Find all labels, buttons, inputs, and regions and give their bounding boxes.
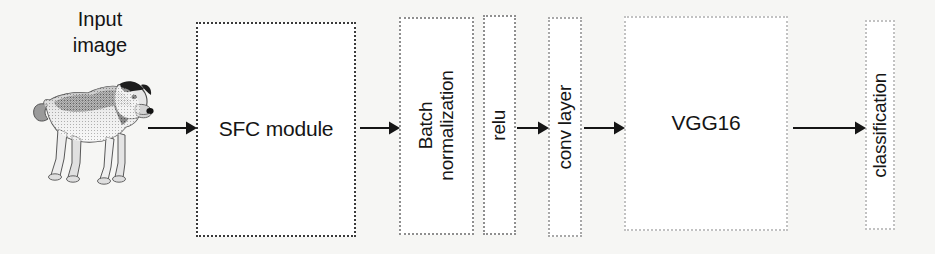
node-conv-layer[interactable]: conv layer bbox=[548, 17, 582, 237]
node-sfc-module[interactable]: SFC module bbox=[196, 22, 356, 237]
arrow-vgg16-to-classification bbox=[793, 117, 866, 139]
node-classification[interactable]: classification bbox=[865, 20, 895, 230]
node-sfc-module-label: SFC module bbox=[219, 118, 334, 141]
node-vgg16[interactable]: VGG16 bbox=[624, 16, 788, 231]
architecture-diagram: Input image bbox=[0, 0, 935, 254]
node-classification-label: classification bbox=[870, 73, 891, 178]
arrow-conv-to-vgg16 bbox=[584, 117, 625, 139]
node-vgg16-label: VGG16 bbox=[671, 112, 740, 135]
arrow-input-to-sfc bbox=[148, 117, 197, 139]
node-batch-normalization-label: Batch normalization bbox=[416, 71, 457, 181]
node-relu-label: relu bbox=[489, 110, 510, 141]
node-relu[interactable]: relu bbox=[483, 15, 516, 235]
arrow-relu-to-conv bbox=[517, 117, 549, 139]
arrow-sfc-to-batchnorm bbox=[360, 117, 400, 139]
input-image-photo bbox=[28, 55, 156, 190]
input-image-caption: Input image bbox=[52, 6, 148, 59]
node-batch-normalization[interactable]: Batch normalization bbox=[399, 17, 474, 235]
node-conv-layer-label: conv layer bbox=[555, 85, 576, 170]
